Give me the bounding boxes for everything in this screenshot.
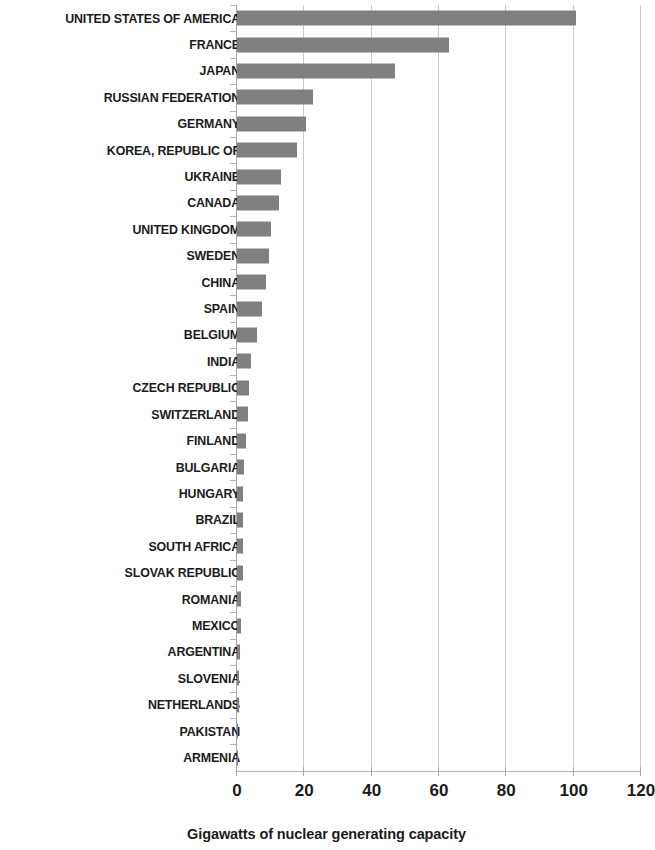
- y-axis-tick: [230, 5, 236, 6]
- category-label: BELGIUM: [18, 328, 240, 341]
- bar-track: [237, 11, 641, 26]
- bar: [237, 380, 249, 395]
- bar: [237, 143, 297, 158]
- category-label: GERMANY: [18, 117, 240, 130]
- category-label: SOUTH AFRICA: [18, 540, 240, 553]
- bar: [237, 116, 306, 131]
- chart-row: JAPAN: [0, 58, 653, 84]
- category-label: SLOVENIA: [18, 672, 240, 685]
- chart-row: KOREA, REPUBLIC OF: [0, 137, 653, 163]
- category-label: CHINA: [18, 276, 240, 289]
- y-axis-tick: [230, 58, 236, 59]
- x-axis-tick-label: 80: [497, 782, 516, 799]
- x-axis-tick-120: [640, 767, 641, 776]
- y-axis-tick: [230, 507, 236, 508]
- bar: [237, 512, 243, 527]
- category-label: CZECH REPUBLIC: [18, 381, 240, 394]
- bar-track: [237, 671, 641, 686]
- bar: [237, 11, 576, 26]
- x-axis-tick-0: [236, 767, 237, 776]
- bar: [237, 592, 241, 607]
- bar: [237, 486, 243, 501]
- chart-row: SWITZERLAND: [0, 401, 653, 427]
- category-label: SPAIN: [18, 302, 240, 315]
- x-axis-tick-100: [573, 767, 574, 776]
- chart-row: SOUTH AFRICA: [0, 533, 653, 559]
- y-axis-tick: [230, 533, 236, 534]
- chart-row: SLOVAK REPUBLIC: [0, 560, 653, 586]
- bar-track: [237, 592, 641, 607]
- category-label: UNITED KINGDOM: [18, 223, 240, 236]
- bar: [237, 90, 313, 105]
- y-axis-tick: [230, 216, 236, 217]
- category-label: SLOVAK REPUBLIC: [18, 566, 240, 579]
- chart-row: ROMANIA: [0, 586, 653, 612]
- x-axis-tick-label: 20: [295, 782, 314, 799]
- bar-track: [237, 116, 641, 131]
- y-axis-tick: [230, 612, 236, 613]
- bar-track: [237, 724, 641, 739]
- bar-track: [237, 697, 641, 712]
- bar: [237, 328, 257, 343]
- x-axis-title: Gigawatts of nuclear generating capacity: [0, 826, 653, 842]
- y-axis-tick: [230, 639, 236, 640]
- category-label: PAKISTAN: [18, 725, 240, 738]
- chart-row: CZECH REPUBLIC: [0, 375, 653, 401]
- chart-row: BRAZIL: [0, 507, 653, 533]
- chart-row: UNITED KINGDOM: [0, 216, 653, 242]
- y-axis-tick: [230, 586, 236, 587]
- bar: [237, 354, 251, 369]
- bar-track: [237, 354, 641, 369]
- chart-row: SPAIN: [0, 295, 653, 321]
- bar-track: [237, 486, 641, 501]
- bar: [237, 539, 243, 554]
- category-label: KOREA, REPUBLIC OF: [18, 144, 240, 157]
- chart-row: SLOVENIA: [0, 665, 653, 691]
- category-label: ROMANIA: [18, 593, 240, 606]
- chart-row: INDIA: [0, 348, 653, 374]
- y-axis-tick: [230, 428, 236, 429]
- x-axis-tick-60: [438, 767, 439, 776]
- bar-track: [237, 90, 641, 105]
- chart-row: HUNGARY: [0, 480, 653, 506]
- y-axis-tick: [230, 454, 236, 455]
- chart-row: UKRAINE: [0, 163, 653, 189]
- y-axis-tick: [230, 560, 236, 561]
- bar-track: [237, 169, 641, 184]
- bar-track: [237, 37, 641, 52]
- chart-row: ARMENIA: [0, 744, 653, 770]
- x-axis-ticks: [0, 771, 653, 779]
- bar: [237, 275, 266, 290]
- bar-track: [237, 750, 641, 765]
- chart-row: CHINA: [0, 269, 653, 295]
- category-label: NETHERLANDS: [18, 698, 240, 711]
- chart-row: FRANCE: [0, 31, 653, 57]
- chart-row: FINLAND: [0, 428, 653, 454]
- bar-track: [237, 460, 641, 475]
- bar: [237, 222, 271, 237]
- category-label: ARGENTINA: [18, 645, 240, 658]
- chart-row: GERMANY: [0, 111, 653, 137]
- category-label: BULGARIA: [18, 461, 240, 474]
- y-axis-tick: [230, 295, 236, 296]
- y-axis-tick: [230, 480, 236, 481]
- chart-row: NETHERLANDS: [0, 692, 653, 718]
- y-axis-tick: [230, 84, 236, 85]
- y-axis-tick: [230, 375, 236, 376]
- y-axis-tick: [230, 190, 236, 191]
- bar: [237, 460, 244, 475]
- category-label: INDIA: [18, 355, 240, 368]
- category-label: SWITZERLAND: [18, 408, 240, 421]
- y-axis-tick: [230, 31, 236, 32]
- bar: [237, 671, 239, 686]
- bar: [237, 248, 269, 263]
- bar-track: [237, 222, 641, 237]
- x-axis-tick-label: 40: [362, 782, 381, 799]
- x-axis-tick-40: [371, 767, 372, 776]
- chart-row: PAKISTAN: [0, 718, 653, 744]
- x-axis-tick-80: [505, 767, 506, 776]
- bar-track: [237, 618, 641, 633]
- y-axis-tick: [230, 163, 236, 164]
- category-label: MEXICO: [18, 619, 240, 632]
- bar: [237, 750, 238, 765]
